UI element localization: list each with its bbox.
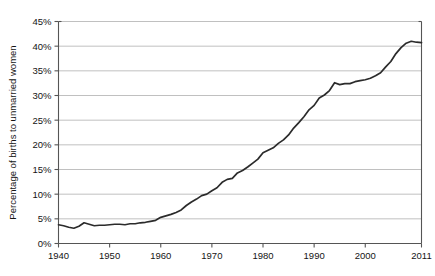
chart-canvas: 0%5%10%15%20%25%30%35%40%45%194019501960… — [0, 0, 435, 276]
y-axis-tick-label: 20% — [32, 139, 52, 150]
y-axis-tick-label: 35% — [32, 65, 52, 76]
y-axis-tick-label: 45% — [32, 16, 52, 27]
line-chart: 0%5%10%15%20%25%30%35%40%45%194019501960… — [0, 0, 435, 276]
x-axis-tick-label: 1980 — [252, 250, 273, 261]
x-axis-tick-label: 2000 — [355, 250, 376, 261]
y-axis-tick-label: 25% — [32, 115, 52, 126]
x-axis-tick-label: 1970 — [201, 250, 222, 261]
x-axis-tick-label: 2011 — [411, 250, 431, 261]
y-axis-tick-label: 10% — [32, 189, 52, 200]
y-axis-tick-label: 40% — [32, 41, 52, 52]
x-axis-tick-label: 1940 — [48, 250, 69, 261]
x-axis-tick-label: 1950 — [99, 250, 120, 261]
y-axis-tick-label: 30% — [32, 90, 52, 101]
y-axis-tick-label: 15% — [32, 164, 52, 175]
x-axis-tick-label: 1960 — [150, 250, 171, 261]
y-axis-tick-label: 0% — [38, 238, 52, 249]
x-axis-tick-label: 1990 — [304, 250, 325, 261]
y-axis-title: Percentage of births to unmarried women — [7, 45, 18, 219]
data-series-line — [59, 41, 422, 228]
y-axis-tick-label: 5% — [38, 213, 52, 224]
